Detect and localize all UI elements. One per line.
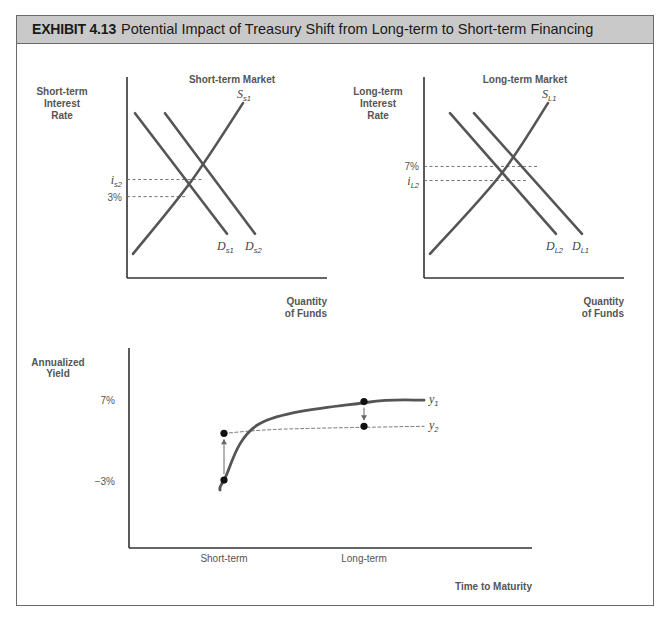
data-point-y2 <box>360 423 367 430</box>
y-axis-label-line-2: Yield <box>46 368 70 379</box>
chart-title: Short-term Market <box>189 74 276 85</box>
curve-label-ds1: Ds1 <box>216 239 234 255</box>
short-term-market-chart: Short-term Market Short-term Interest Ra… <box>36 74 327 319</box>
x-tick-label-long-term: Long-term <box>341 553 387 564</box>
curve-label-dl2: DL2 <box>545 239 564 255</box>
data-point-y2 <box>220 430 227 437</box>
reference-line-label: iL2 <box>407 174 420 190</box>
x-tick-label-short-term: Short-term <box>200 553 247 564</box>
reference-line-label: 7% <box>405 161 420 172</box>
y-axis-label-line-2: Interest <box>44 98 81 109</box>
curve-label-ds2: Ds2 <box>244 239 262 255</box>
yield-curve-chart: Annualized Yield 7% −3% Short-term Long-… <box>31 348 532 592</box>
y-axis-label-line-1: Annualized <box>31 357 84 368</box>
y-axis-label-line-1: Long-term <box>353 86 403 97</box>
curve-label-sl1: SL1 <box>542 87 556 103</box>
curve-label-ss1: Ss1 <box>237 87 251 103</box>
yield-curve-label-y1: y1 <box>428 392 439 408</box>
x-axis-label-line-1: Quantity <box>583 296 624 307</box>
shift-arrow-head <box>221 439 227 444</box>
y-axis-label-line-2: Interest <box>360 98 397 109</box>
reference-line-label: 3% <box>108 192 123 203</box>
supply-curve-sl1 <box>430 103 548 254</box>
data-point-y1 <box>220 476 227 483</box>
y-tick-label-neg3pct: −3% <box>95 476 115 487</box>
x-axis-label-line-2: of Funds <box>285 308 328 319</box>
y-tick-label-7pct: 7% <box>101 395 116 406</box>
y-axis-label-line-3: Rate <box>367 110 389 121</box>
x-axis-label: Time to Maturity <box>455 581 532 592</box>
demand-curve-ds1 <box>135 113 227 234</box>
long-term-market-chart: Long-term Market Long-term Interest Rate… <box>353 74 624 319</box>
x-axis-label-line-2: of Funds <box>582 308 625 319</box>
yield-curve-label-y2: y2 <box>428 418 439 434</box>
curve-label-dl1: DL1 <box>571 239 589 255</box>
demand-curve-dl1 <box>474 113 582 234</box>
x-axis-label-line-1: Quantity <box>286 296 327 307</box>
yield-curve-y1 <box>220 400 424 490</box>
demand-curve-ds2 <box>165 113 255 234</box>
data-point-y1 <box>360 398 367 405</box>
shift-arrow-head <box>361 415 367 420</box>
y-axis-label-line-1: Short-term <box>36 86 87 97</box>
reference-line-label: is2 <box>111 173 123 189</box>
charts-canvas: Short-term Market Short-term Interest Ra… <box>0 0 668 625</box>
y-axis-label-line-3: Rate <box>51 110 73 121</box>
chart-title: Long-term Market <box>483 74 568 85</box>
